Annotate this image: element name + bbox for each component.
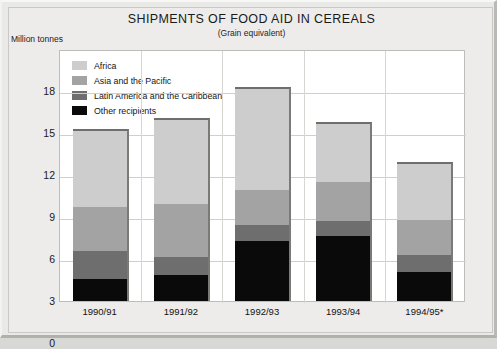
- y-axis-tick-label: 12: [11, 169, 55, 181]
- bar-1993-94: [316, 122, 372, 301]
- y-axis-tick-label: 15: [11, 127, 55, 139]
- legend-item: Other recipients: [72, 104, 222, 117]
- y-axis-title: Million tonnes: [11, 34, 63, 44]
- bar-segment: [73, 207, 127, 251]
- bar-segment: [316, 124, 370, 182]
- legend-swatch: [72, 76, 87, 85]
- bar-1994-95-: [397, 162, 453, 301]
- legend-swatch: [72, 61, 87, 70]
- bar-segment: [397, 255, 451, 272]
- bar-segment: [154, 120, 208, 204]
- bar-1990-91: [73, 129, 129, 301]
- chart-title: SHIPMENTS OF FOOD AID IN CEREALS: [9, 12, 494, 26]
- bar-segment: [154, 204, 208, 257]
- bar-segment: [235, 225, 289, 242]
- chart-subtitle: (Grain equivalent): [9, 28, 494, 38]
- bar-segment: [235, 190, 289, 225]
- chart-panel: SHIPMENTS OF FOOD AID IN CEREALS (Grain …: [8, 7, 493, 333]
- x-axis-tick-label: 1990/91: [60, 306, 140, 317]
- x-axis-tick-label: 1993/94: [303, 306, 383, 317]
- y-axis-tick-label: 3: [11, 295, 55, 307]
- y-axis: 0369121518: [9, 50, 55, 302]
- bar-segment: [316, 236, 370, 301]
- legend-item: Africa: [72, 59, 222, 72]
- category-separator: [385, 51, 386, 303]
- bar-segment: [397, 220, 451, 256]
- x-axis-tick-label: 1994/95*: [384, 306, 464, 317]
- bar-segment: [73, 131, 127, 207]
- y-axis-tick-label: 9: [11, 211, 55, 223]
- x-axis-tick-label: 1992/93: [222, 306, 302, 317]
- legend-item: Asia and the Pacific: [72, 74, 222, 87]
- legend-item: Latin America and the Caribbean: [72, 89, 222, 102]
- legend-label: Latin America and the Caribbean: [94, 91, 222, 101]
- bar-segment: [397, 164, 451, 219]
- category-separator: [304, 51, 305, 303]
- bar-segment: [73, 279, 127, 301]
- legend-label: Other recipients: [94, 106, 156, 116]
- bar-segment: [154, 275, 208, 301]
- category-separator: [141, 51, 142, 303]
- y-axis-tick-label: 0: [11, 337, 55, 349]
- bar-1992-93: [235, 87, 291, 301]
- bar-1991-92: [154, 118, 210, 301]
- legend-label: Africa: [94, 61, 117, 71]
- bar-segment: [235, 241, 289, 301]
- bar-segment: [73, 251, 127, 279]
- x-axis-tick-label: 1991/92: [141, 306, 221, 317]
- bar-segment: [397, 272, 451, 301]
- bar-segment: [316, 182, 370, 221]
- chart-legend: AfricaAsia and the PacificLatin America …: [72, 59, 222, 119]
- bar-segment: [235, 89, 289, 190]
- category-separator: [222, 51, 223, 303]
- y-axis-tick-label: 18: [11, 85, 55, 97]
- legend-label: Asia and the Pacific: [94, 76, 171, 86]
- bar-segment: [154, 257, 208, 275]
- legend-swatch: [72, 106, 87, 115]
- y-axis-tick-label: 6: [11, 253, 55, 265]
- plot-area: AfricaAsia and the PacificLatin America …: [59, 50, 465, 302]
- bar-segment: [316, 221, 370, 236]
